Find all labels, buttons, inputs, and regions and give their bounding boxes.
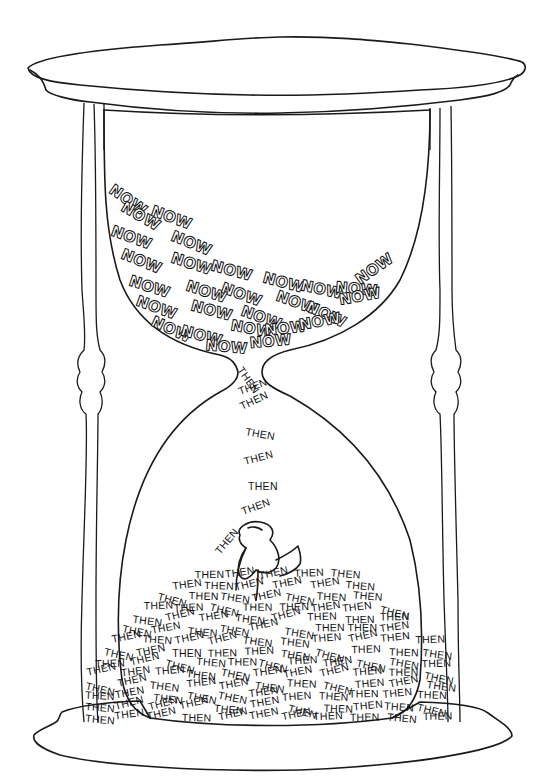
- then-word: THEN: [311, 630, 342, 644]
- then-word: THEN: [111, 627, 143, 644]
- then-word: THEN: [350, 710, 380, 723]
- then-word: THEN: [280, 705, 312, 723]
- then-word: THEN: [245, 425, 276, 442]
- now-word: NOW: [249, 330, 293, 352]
- now-word: NOW: [205, 336, 249, 358]
- then-word: THEN: [114, 706, 145, 722]
- then-word: THEN: [380, 629, 411, 644]
- then-word: THEN: [85, 660, 117, 678]
- hourglass-illustration: NOWNOWNOWNOWNOWNOWNOWNOWNOWNOWNOWNOWNOWN…: [0, 0, 546, 783]
- then-word: THEN: [387, 710, 418, 725]
- then-word: THEN: [243, 601, 273, 613]
- now-word: NOW: [189, 296, 235, 324]
- then-word: THEN: [423, 709, 453, 722]
- then-word: THEN: [212, 526, 240, 557]
- then-word: THEN: [341, 599, 372, 614]
- then-word: THEN: [415, 633, 445, 646]
- then-word: THEN: [287, 677, 317, 690]
- left-post: [77, 103, 105, 722]
- right-post: [430, 106, 461, 722]
- top-cap: [28, 37, 525, 113]
- then-word: THEN: [281, 689, 312, 703]
- then-pile: THENTHENTHENTHENTHENTHENTHENTHENTHENTHEN…: [85, 563, 458, 726]
- then-word: THEN: [182, 711, 212, 724]
- then-word: THEN: [313, 709, 343, 722]
- then-word: THEN: [85, 712, 116, 727]
- then-word: THEN: [242, 448, 274, 467]
- then-word: THEN: [351, 642, 381, 655]
- then-word: THEN: [417, 688, 447, 701]
- then-word: THEN: [155, 662, 186, 677]
- then-word: THEN: [382, 685, 413, 700]
- then-word: THEN: [421, 656, 451, 669]
- then-stream: THENTHENTHENTHENTHENTHENTHENTHEN: [212, 364, 277, 556]
- now-words: NOWNOWNOWNOWNOWNOWNOWNOWNOWNOWNOWNOWNOWN…: [106, 181, 397, 358]
- then-word: THEN: [186, 674, 217, 689]
- then-word: THEN: [248, 480, 278, 492]
- then-word: THEN: [240, 495, 272, 516]
